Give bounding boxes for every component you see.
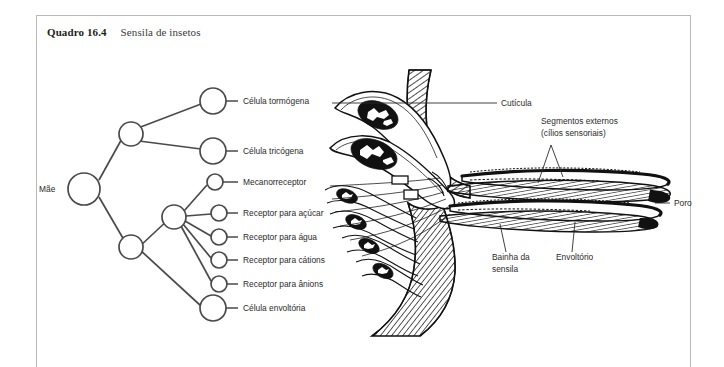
- label-outer-segments-2: (cílios sensoriais): [541, 128, 606, 138]
- sensillum-anatomy: Cutícula Segmentos externos (cílios sens…: [325, 70, 692, 336]
- label-trichogen-cell: Célula tricógena: [243, 146, 304, 156]
- node-mother[interactable]: [68, 173, 100, 205]
- shaft-wall-upper: [448, 180, 670, 201]
- label-sugar-receptor: Receptor para açúcar: [243, 208, 324, 218]
- tree-leaders: [223, 101, 238, 308]
- node-anion-receptor[interactable]: [211, 276, 227, 292]
- label-cation-receptor: Receptor para cátions: [243, 255, 325, 265]
- lineage-tree: Mãe Célula tormógena Célula tricógena Me…: [39, 88, 325, 321]
- node-branch-lower[interactable]: [119, 235, 143, 259]
- node-envelope-cell[interactable]: [200, 295, 226, 321]
- label-water-receptor: Receptor para água: [243, 232, 317, 242]
- label-envelope: Envoltório: [556, 252, 594, 262]
- node-trichogen[interactable]: [200, 138, 226, 164]
- tree-branches: [99, 104, 211, 306]
- node-branch-upper[interactable]: [119, 122, 143, 146]
- label-sheath-2: sensila: [492, 264, 518, 274]
- label-mother: Mãe: [39, 184, 56, 194]
- shaft-wall-lower: [440, 211, 658, 232]
- node-water-receptor[interactable]: [211, 229, 227, 245]
- label-tormogen-cell: Célula tormógena: [243, 96, 309, 106]
- label-anion-receptor: Receptor para ânions: [243, 279, 323, 289]
- label-outer-segments-1: Segmentos externos: [541, 116, 618, 126]
- node-branch-receptors[interactable]: [162, 205, 186, 229]
- label-mechanoreceptor: Mecanorreceptor: [243, 177, 307, 187]
- pore-tip-lower: [638, 218, 658, 229]
- label-sheath-1: Bainha da: [492, 252, 530, 262]
- node-cation-receptor[interactable]: [211, 252, 227, 268]
- node-tormogen[interactable]: [200, 88, 226, 114]
- node-sugar-receptor[interactable]: [211, 205, 227, 221]
- label-pore: Poro: [674, 198, 692, 208]
- tree-nodes: [68, 88, 227, 321]
- label-envelope-cell: Célula envoltória: [243, 303, 306, 313]
- label-cuticle: Cutícula: [501, 98, 532, 108]
- node-mechanoreceptor[interactable]: [207, 174, 223, 190]
